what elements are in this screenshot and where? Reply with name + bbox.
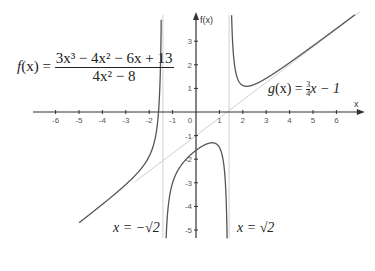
f-formula: f(x) = 3x³ − 4x² − 6x + 13 4x² − 8 [17, 50, 174, 85]
left-asymptote-label: x = −√2 [113, 220, 160, 236]
y-tick-label: -3 [185, 179, 193, 188]
function-curves [79, 15, 355, 239]
y-tick-label: 2 [188, 61, 193, 70]
y-tick-label: -4 [185, 202, 193, 211]
f-numerator: 3x³ − 4x² − 6x + 13 [55, 50, 174, 68]
x-tick-label: -2 [146, 116, 154, 125]
x-tick-label: 5 [311, 116, 316, 125]
y-tick-label: 1 [188, 84, 193, 93]
y-axis-label: f(x) [200, 15, 213, 25]
x-tick-label: 2 [241, 116, 246, 125]
y-axis-arrow-icon [193, 12, 199, 20]
g-name: g [268, 81, 275, 96]
f-denominator: 4x² − 8 [55, 68, 174, 85]
f-arg: (x) = [21, 58, 51, 74]
x-tick-label: 4 [287, 116, 292, 125]
x-tick-label: 0 [188, 116, 193, 125]
x-tick-label: -5 [75, 116, 83, 125]
x-tick-label: 6 [334, 116, 339, 125]
f-fraction: 3x³ − 4x² − 6x + 13 4x² − 8 [55, 50, 174, 85]
f-curve-branch-2 [166, 143, 227, 239]
function-plot: -6-5-4-3-2-10123456-5-4-3-2-1123 x f(x) [0, 0, 375, 271]
x-tick-label: -6 [52, 116, 60, 125]
x-axis-label: x [354, 99, 359, 109]
x-tick-label: 3 [264, 116, 269, 125]
x-tick-label: -3 [122, 116, 130, 125]
f-curve-branch-3 [232, 15, 355, 87]
x-tick-label: -4 [99, 116, 107, 125]
right-asymptote-label: x = √2 [237, 220, 274, 236]
y-tick-label: -5 [185, 226, 193, 235]
g-formula: g(x) = 34x − 1 [268, 81, 340, 98]
g-rest: x − 1 [310, 81, 340, 96]
y-tick-label: 3 [188, 37, 193, 46]
x-tick-label: 1 [217, 116, 222, 125]
y-tick-label: -1 [185, 132, 193, 141]
g-arg: (x) = [275, 81, 303, 96]
x-axis-arrow-icon [357, 109, 365, 115]
x-tick-label: -1 [169, 116, 177, 125]
